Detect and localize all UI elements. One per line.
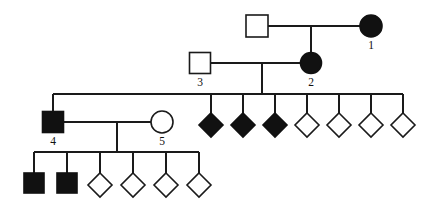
individual-number-label: 4 (50, 135, 56, 147)
individual-diamond-affected (231, 113, 255, 137)
individual-diamond-unaffected (154, 173, 178, 197)
individual-diamond-unaffected (359, 113, 383, 137)
individual-circle-affected (360, 15, 382, 37)
individual-diamond-unaffected (391, 113, 415, 137)
individual-circle-unaffected (151, 111, 173, 133)
connector-lines-layer (34, 26, 403, 173)
individual-diamond-unaffected (121, 173, 145, 197)
symbols-layer (24, 15, 415, 197)
individual-number-label: 3 (197, 76, 203, 88)
individual-square-unaffected (246, 15, 268, 37)
individual-square-unaffected (190, 53, 211, 74)
individual-diamond-affected (199, 113, 223, 137)
individual-number-label: 1 (368, 39, 374, 51)
pedigree-chart: 12345 (0, 0, 430, 212)
individual-square-affected (43, 112, 64, 133)
individual-diamond-unaffected (295, 113, 319, 137)
individual-diamond-unaffected (187, 173, 211, 197)
individual-circle-affected (301, 53, 322, 74)
individual-diamond-affected (263, 113, 287, 137)
individual-diamond-unaffected (88, 173, 112, 197)
pedigree-canvas: 12345 (0, 0, 430, 212)
individual-number-label: 5 (159, 135, 165, 147)
individual-diamond-unaffected (327, 113, 351, 137)
individual-square-affected (24, 173, 44, 193)
individual-number-label: 2 (308, 76, 314, 88)
individual-square-affected (57, 173, 77, 193)
